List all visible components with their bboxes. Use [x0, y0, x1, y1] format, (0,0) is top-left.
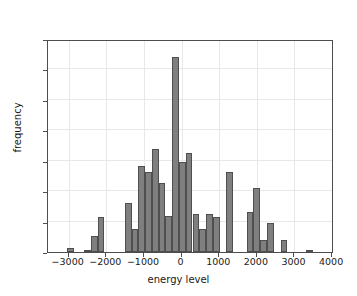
x-axis-tick-mark — [218, 253, 219, 257]
histogram-bar — [281, 240, 288, 252]
y-axis-tick-mark — [43, 101, 47, 102]
histogram-bar — [132, 229, 139, 252]
x-axis-tick-label: −2000 — [89, 257, 121, 267]
histogram-bar — [199, 229, 206, 252]
x-axis-tick-mark — [181, 253, 182, 257]
histogram-bar — [165, 216, 172, 253]
histogram-bar — [206, 214, 213, 252]
y-axis-tick-mark — [43, 223, 47, 224]
histogram-bar — [84, 250, 91, 252]
histogram-bar — [247, 212, 254, 252]
histogram-bar — [213, 217, 220, 252]
y-axis-tick-mark — [43, 131, 47, 132]
x-axis-tick-label: 4000 — [319, 257, 343, 267]
histogram-bar — [159, 183, 166, 252]
y-axis-tick-mark — [43, 192, 47, 193]
x-axis-tick-mark — [143, 253, 144, 257]
histogram-bar — [306, 250, 313, 252]
x-axis-tick-label: 2000 — [244, 257, 268, 267]
x-axis-tick-label: −3000 — [52, 257, 84, 267]
gridline-horizontal — [48, 68, 332, 69]
gridline-vertical — [294, 41, 295, 252]
plot-area — [47, 40, 333, 253]
histogram-bar — [91, 236, 98, 252]
histogram-bar — [138, 166, 145, 252]
y-axis-tick-mark — [43, 253, 47, 254]
y-axis-title: frequency — [12, 78, 23, 178]
histogram-bar — [193, 214, 200, 252]
histogram-bar — [267, 223, 274, 252]
histogram-bar — [152, 149, 159, 252]
x-axis-tick-mark — [331, 253, 332, 257]
histogram-bar — [186, 153, 193, 253]
histogram-bar — [125, 203, 132, 252]
gridline-vertical — [106, 41, 107, 252]
y-axis-tick-mark — [43, 40, 47, 41]
x-axis-tick-label: −1000 — [127, 257, 159, 267]
histogram-bar — [226, 172, 233, 252]
histogram-bar — [67, 248, 74, 252]
x-axis-tick-mark — [105, 253, 106, 257]
x-axis-tick-mark — [293, 253, 294, 257]
y-axis-tick-mark — [43, 162, 47, 163]
x-axis-tick-label: 0 — [178, 257, 184, 267]
histogram-bar — [260, 240, 267, 252]
histogram-bar — [253, 188, 260, 253]
histogram-bar — [98, 217, 105, 252]
x-axis-tick-mark — [68, 253, 69, 257]
x-axis-tick-label: 1000 — [206, 257, 230, 267]
histogram-bar — [172, 57, 179, 252]
x-axis-title: energy level — [0, 274, 357, 285]
histogram-figure: 0100200300400500600700 −3000−2000−100001… — [0, 0, 357, 296]
gridline-horizontal — [48, 129, 332, 130]
histogram-bar — [145, 172, 152, 252]
gridline-vertical — [332, 41, 333, 252]
histogram-bar — [179, 162, 186, 252]
x-axis-tick-label: 3000 — [281, 257, 305, 267]
gridline-horizontal — [48, 99, 332, 100]
gridline-vertical — [69, 41, 70, 252]
y-axis-tick-mark — [43, 70, 47, 71]
x-axis-tick-mark — [256, 253, 257, 257]
